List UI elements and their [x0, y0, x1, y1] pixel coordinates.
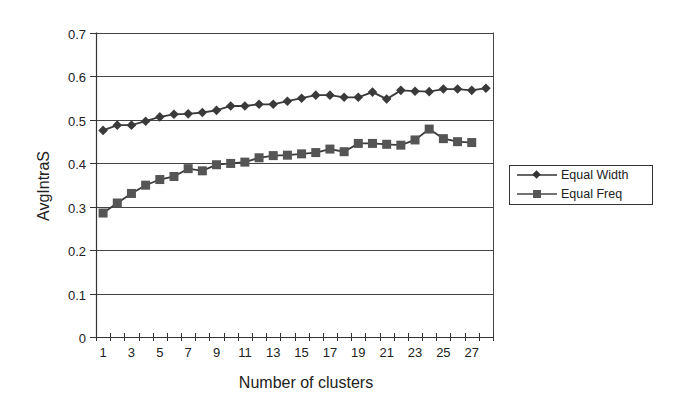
square-marker	[425, 125, 434, 134]
series-equal-freq	[99, 125, 477, 218]
diamond-marker	[183, 109, 193, 119]
square-marker	[325, 145, 334, 154]
diamond-marker	[141, 116, 151, 126]
x-axis-title: Number of clusters	[239, 374, 373, 391]
line-chart: 00.10.20.30.40.50.60.7 13579111315171921…	[0, 0, 685, 409]
diamond-marker	[453, 84, 463, 94]
y-tick-label: 0.1	[68, 288, 86, 303]
diamond-marker	[226, 101, 236, 111]
diamond-marker	[283, 96, 293, 106]
square-marker	[382, 140, 391, 149]
plot-frame	[97, 33, 494, 338]
square-marker	[198, 166, 207, 175]
square-marker	[113, 199, 122, 208]
diamond-marker	[354, 93, 364, 103]
x-tick-label: 17	[323, 345, 337, 360]
x-tick-label: 27	[464, 345, 478, 360]
series-layer	[98, 83, 490, 217]
y-tick-label: 0	[79, 331, 86, 346]
x-tick-label: 5	[156, 345, 163, 360]
square-marker	[467, 138, 476, 147]
square-icon	[533, 190, 541, 198]
diamond-marker	[439, 84, 449, 94]
diamond-marker	[467, 86, 477, 96]
diamond-marker	[112, 120, 122, 130]
square-marker	[184, 164, 193, 173]
y-tick-label: 0.2	[68, 244, 86, 259]
diamond-marker	[98, 126, 108, 136]
x-tick-label: 1	[99, 345, 106, 360]
x-tick-label: 7	[185, 345, 192, 360]
square-marker	[226, 159, 235, 168]
square-marker	[396, 141, 405, 150]
diamond-marker	[396, 86, 406, 96]
square-marker	[439, 134, 448, 143]
x-tick-label: 21	[379, 345, 393, 360]
y-tick-label: 0.4	[68, 157, 86, 172]
square-marker	[141, 181, 150, 190]
x-tick-label: 11	[238, 345, 252, 360]
square-marker	[99, 209, 108, 218]
square-marker	[311, 148, 320, 157]
diamond-marker	[311, 90, 321, 100]
diamond-marker	[410, 86, 420, 96]
y-tick-label: 0.5	[68, 114, 86, 129]
diamond-marker	[325, 90, 335, 100]
legend-label: Equal Freq	[561, 187, 622, 201]
square-marker	[283, 151, 292, 160]
gridlines	[96, 34, 493, 295]
square-marker	[340, 147, 349, 156]
legend: Equal Width Equal Freq	[510, 166, 653, 205]
diamond-marker	[240, 101, 250, 111]
x-tick-label: 9	[213, 345, 220, 360]
square-marker	[368, 139, 377, 148]
x-tick-label: 19	[351, 345, 365, 360]
diamond-marker	[212, 106, 222, 116]
x-axis: 13579111315171921232527	[90, 333, 494, 360]
diamond-marker	[198, 108, 208, 118]
x-tick-label: 3	[128, 345, 135, 360]
diamond-marker	[127, 120, 137, 130]
legend-label: Equal Width	[561, 168, 628, 182]
diamond-marker	[339, 93, 349, 103]
diamond-marker	[268, 99, 278, 109]
y-axis-title: AvgIntraS	[35, 151, 52, 221]
square-marker	[354, 139, 363, 148]
x-tick-label: 13	[266, 345, 280, 360]
square-marker	[255, 153, 264, 162]
diamond-marker	[297, 93, 307, 103]
square-marker	[155, 175, 164, 184]
square-marker	[127, 189, 136, 198]
square-marker	[453, 137, 462, 146]
y-tick-label: 0.6	[68, 70, 86, 85]
y-axis: 00.10.20.30.40.50.60.7	[68, 27, 96, 346]
square-marker	[169, 172, 178, 181]
square-marker	[297, 149, 306, 158]
diamond-marker	[424, 87, 434, 97]
square-marker	[411, 135, 420, 144]
y-tick-label: 0.7	[68, 27, 86, 42]
diamond-marker	[368, 87, 378, 97]
square-marker	[212, 160, 221, 169]
x-tick-label: 25	[436, 345, 450, 360]
square-marker	[240, 158, 249, 167]
x-tick-label: 23	[408, 345, 422, 360]
diamond-marker	[169, 109, 179, 119]
y-tick-label: 0.3	[68, 201, 86, 216]
diamond-marker	[382, 94, 392, 104]
diamond-marker	[254, 99, 264, 109]
x-tick-label: 15	[294, 345, 308, 360]
square-marker	[269, 151, 278, 160]
diamond-marker	[481, 83, 491, 93]
